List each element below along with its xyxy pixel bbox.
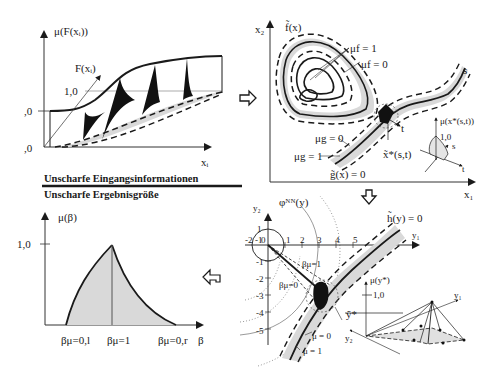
x-axis-label: β (198, 334, 204, 346)
beta-mu0-label: βμ=0 (279, 280, 298, 290)
f-function-label: f̃(x) (285, 20, 302, 34)
y-axis-label: y₂ (253, 203, 261, 213)
beta-left-label: βμ=0,l (61, 334, 90, 346)
design-point-label: x̃*(s,t) (383, 148, 412, 161)
tick-x-1: 1 (286, 235, 291, 245)
x-axis-label: y₁ (412, 230, 420, 240)
tick-x-neg2: -2 (245, 235, 253, 245)
tick-y-neg5: -5 (256, 326, 264, 336)
inset-y2-label: y₂ (345, 333, 353, 343)
h-function-label: h̃(y) = 0 (387, 211, 423, 225)
tick-lower-label: ,0 (24, 142, 33, 154)
mu1-label: μ = 1 (303, 346, 322, 356)
y-axis-label: x₂ (255, 23, 265, 35)
heading-output: Unscharfe Ergebnisgröße (44, 189, 159, 200)
beta-right-label: βμ=0,r (158, 334, 188, 346)
fuzzy-reliability-diagram: μ(F(xᵢ)) F(xᵢ) 1,0 ,0 ,0 xᵢ Unscharfe Ei… (0, 0, 497, 377)
inset-tick-label: 1,0 (373, 290, 385, 300)
tick-y-neg4: -4 (256, 308, 264, 318)
x-axis-label: x₁ (464, 188, 474, 200)
panel-result: μ(β) 1,0 βμ=0,l βμ=1 βμ=0,r β (17, 211, 204, 346)
tick-y-neg3: -3 (256, 291, 264, 301)
tick-x-5: 5 (353, 235, 358, 245)
panel-limit-state: x₂ f̃(x) μf = 1 μf = 0 μg = 0 μg = 1 g̃(… (255, 20, 474, 200)
inset-s-label: s (452, 141, 456, 151)
panel-standard-space: y₂ φᴺᴺ(y) h̃(y) = 0 y₁ -2 -1 0 1 2 3 4 5… (240, 196, 466, 366)
inset-y-label: μ(x*(s,t)) (440, 116, 474, 126)
mu-g1-label: μg = 1 (294, 150, 323, 162)
tick-1-label: 1,0 (17, 238, 31, 250)
mu-g0-label: μg = 0 (315, 132, 344, 144)
inset-tick-label: 1,0 (440, 132, 452, 142)
inset-t-label: t (462, 164, 465, 174)
heading-input: Unscharfe Eingangsinformationen (44, 173, 198, 184)
phi-label: φᴺᴺ(y) (279, 196, 309, 209)
tick-y-1: 1 (257, 224, 262, 234)
mu0-label: μ = 0 (312, 331, 331, 341)
mu-f1-label: μf = 1 (350, 42, 377, 54)
arrow-right-icon (240, 91, 256, 105)
curve-label: F(xᵢ) (75, 62, 96, 75)
inset-y-label: μ(y*) (370, 275, 390, 285)
tick-inner-label: 1,0 (64, 85, 78, 97)
g-function-label: g̃(x) = 0 (330, 168, 366, 181)
y-axis-label: μ(β) (58, 211, 77, 224)
t-direction-label: t (401, 122, 404, 134)
tick-x-0: 0 (261, 235, 266, 245)
mu-f0-label: μf = 0 (361, 58, 388, 70)
ystar-label: ỹ* (346, 308, 357, 320)
inset-fuzzy-point (420, 118, 462, 172)
panel-input-information: μ(F(xᵢ)) F(xᵢ) 1,0 ,0 ,0 xᵢ (24, 25, 222, 168)
tick-y-neg2: -2 (256, 274, 264, 284)
tick-y-neg1: -1 (256, 257, 264, 267)
beta-mid-label: βμ=1 (107, 334, 130, 346)
beta-mu1-label: βμ=1 (302, 259, 321, 269)
tick-x-4: 4 (335, 235, 340, 245)
tick-upper-label: ,0 (24, 105, 33, 117)
arrow-left-icon (203, 270, 220, 284)
tick-x-2: 2 (300, 235, 305, 245)
s-direction-label: s (463, 64, 467, 76)
inset-fuzzy-pyramid (345, 282, 466, 354)
tick-x-3: 3 (317, 235, 322, 245)
x-axis-label: xᵢ (201, 156, 209, 168)
arrow-down-icon (362, 190, 376, 204)
y-axis-label: μ(F(xᵢ)) (54, 25, 88, 38)
inset-y1-label: y₁ (454, 290, 462, 300)
